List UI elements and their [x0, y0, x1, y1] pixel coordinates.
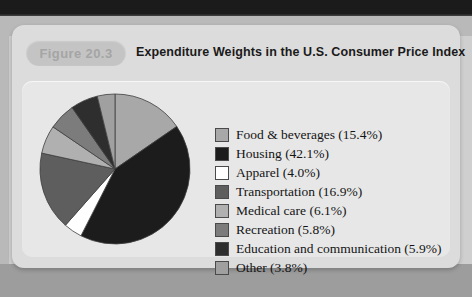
legend-swatch-icon	[215, 185, 229, 199]
legend-item-label: Medical care (6.1%)	[236, 203, 347, 219]
legend-swatch-icon	[215, 147, 229, 161]
legend-item-label: Recreation (5.8%)	[236, 222, 335, 238]
legend-item: Transportation (16.9%)	[215, 182, 447, 201]
legend-item-label: Housing (42.1%)	[236, 146, 329, 162]
legend-swatch-icon	[215, 223, 229, 237]
legend-item-label: Other (3.8%)	[236, 260, 307, 276]
legend-swatch-icon	[215, 242, 229, 256]
figure-screenshot: Figure 20.3 Expenditure Weights in the U…	[0, 0, 472, 297]
pie-chart	[36, 81, 196, 257]
legend-swatch-icon	[215, 128, 229, 142]
legend-item-label: Apparel (4.0%)	[236, 165, 320, 181]
figure-number-badge: Figure 20.3	[26, 40, 126, 66]
figure-header: Figure 20.3 Expenditure Weights in the U…	[12, 25, 460, 71]
legend-swatch-icon	[215, 204, 229, 218]
legend-item: Other (3.8%)	[215, 258, 447, 277]
legend-item: Medical care (6.1%)	[215, 201, 447, 220]
legend-item: Housing (42.1%)	[215, 144, 447, 163]
legend-item-label: Transportation (16.9%)	[236, 184, 362, 200]
figure-title: Expenditure Weights in the U.S. Consumer…	[136, 45, 465, 59]
legend-item: Education and communication (5.9%)	[215, 239, 447, 258]
legend-swatch-icon	[215, 166, 229, 180]
pie-chart-svg	[36, 81, 196, 257]
chart-panel: Food & beverages (15.4%)Housing (42.1%)A…	[22, 81, 450, 257]
legend-item: Food & beverages (15.4%)	[215, 125, 447, 144]
legend-swatch-icon	[215, 261, 229, 275]
legend-item: Recreation (5.8%)	[215, 220, 447, 239]
chart-legend: Food & beverages (15.4%)Housing (42.1%)A…	[215, 125, 447, 277]
legend-item-label: Food & beverages (15.4%)	[236, 127, 382, 143]
figure-card: Figure 20.3 Expenditure Weights in the U…	[12, 25, 460, 268]
legend-item: Apparel (4.0%)	[215, 163, 447, 182]
legend-item-label: Education and communication (5.9%)	[236, 241, 441, 257]
